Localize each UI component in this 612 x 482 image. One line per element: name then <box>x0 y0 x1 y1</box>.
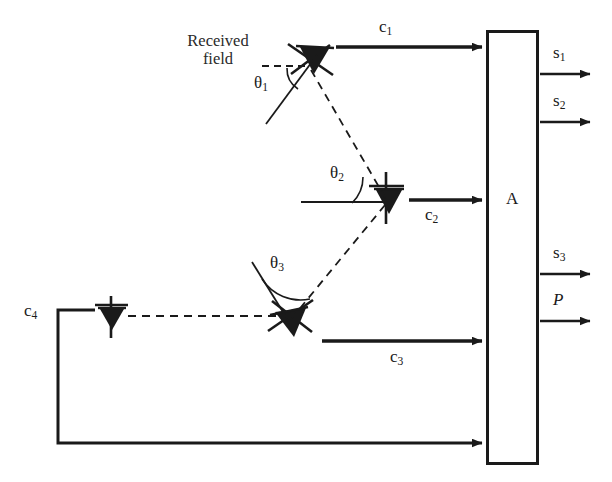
channel-label-c4: c4 <box>24 302 37 323</box>
ray-element2-to-element3 <box>292 205 385 318</box>
theta1-label: θ1 <box>254 74 268 95</box>
ray-element1-to-element2 <box>311 70 386 199</box>
theta2-label: θ2 <box>330 164 344 185</box>
output-label-s3: s3 <box>553 244 565 265</box>
antenna-element-3 <box>268 300 313 337</box>
theta2-arc <box>352 177 363 203</box>
diagram-vector-layer <box>0 0 612 482</box>
theta3-label: θ3 <box>270 254 284 275</box>
output-label-p: P <box>553 291 563 312</box>
figure-canvas: Received field θ1 θ2 θ3 c1 c2 c3 c4 A s1… <box>0 0 612 482</box>
received-field-label: Received field <box>170 32 266 68</box>
output-label-s1: s1 <box>553 44 565 65</box>
processor-label: A <box>506 190 518 208</box>
channel-label-c1: c1 <box>379 18 392 39</box>
channel-label-c3: c3 <box>390 348 403 369</box>
channel-label-c2: c2 <box>425 206 438 227</box>
output-label-s2: s2 <box>553 92 565 113</box>
antenna-element-4 <box>95 296 128 338</box>
processor-block <box>488 32 538 464</box>
